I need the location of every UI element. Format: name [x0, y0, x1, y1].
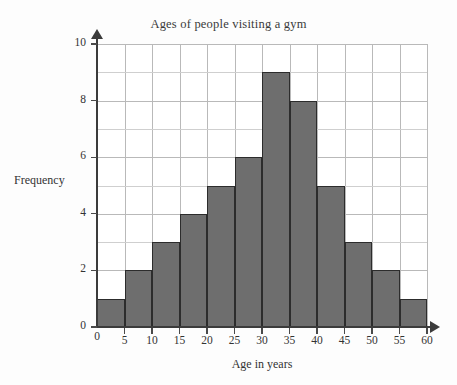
- x-tick-label: 50: [360, 334, 384, 346]
- x-tick-label: 0: [85, 330, 109, 342]
- y-tick-label: 4: [60, 206, 86, 218]
- chart-page: Ages of people visiting a gym PiXL 02468…: [0, 0, 457, 385]
- bar: [400, 299, 428, 327]
- gridline-horizontal: [97, 44, 427, 45]
- y-tick-mark: [91, 157, 97, 158]
- x-axis-arrow-icon: [430, 321, 440, 333]
- x-axis-title: Age in years: [97, 357, 427, 372]
- y-tick-mark: [91, 100, 97, 101]
- x-tick-label: 35: [278, 334, 302, 346]
- bar: [262, 72, 290, 327]
- bar: [290, 101, 318, 327]
- x-tick-label: 15: [168, 334, 192, 346]
- x-tick-label: 5: [113, 334, 137, 346]
- y-tick-mark: [91, 213, 97, 214]
- y-tick-label: 6: [60, 149, 86, 161]
- x-tick-label: 60: [415, 334, 439, 346]
- plot-area: PiXL: [97, 44, 427, 327]
- bar: [207, 186, 235, 328]
- y-tick-mark: [91, 326, 97, 327]
- y-tick-mark: [91, 43, 97, 44]
- x-tick-label: 20: [195, 334, 219, 346]
- y-tick-label: 2: [60, 262, 86, 274]
- bar: [125, 270, 153, 327]
- bar: [180, 214, 208, 327]
- bar: [345, 242, 373, 327]
- y-axis-line: [96, 36, 98, 328]
- y-tick-label: 0: [60, 319, 86, 331]
- x-tick-label: 45: [333, 334, 357, 346]
- x-tick-label: 55: [388, 334, 412, 346]
- y-axis-title: Frequency: [14, 173, 65, 188]
- bar: [152, 242, 180, 327]
- y-tick-mark: [91, 270, 97, 271]
- x-axis-line: [96, 326, 432, 328]
- y-axis-arrow-icon: [91, 29, 103, 39]
- chart-title: Ages of people visiting a gym: [0, 17, 457, 32]
- bar: [97, 299, 125, 327]
- x-tick-label: 10: [140, 334, 164, 346]
- x-tick-label: 40: [305, 334, 329, 346]
- x-tick-label: 30: [250, 334, 274, 346]
- bar: [235, 157, 263, 327]
- bar: [372, 270, 400, 327]
- x-tick-label: 25: [223, 334, 247, 346]
- y-tick-label: 8: [60, 93, 86, 105]
- gridline-vertical: [427, 44, 428, 327]
- bar: [317, 186, 345, 328]
- y-tick-label: 10: [60, 36, 86, 48]
